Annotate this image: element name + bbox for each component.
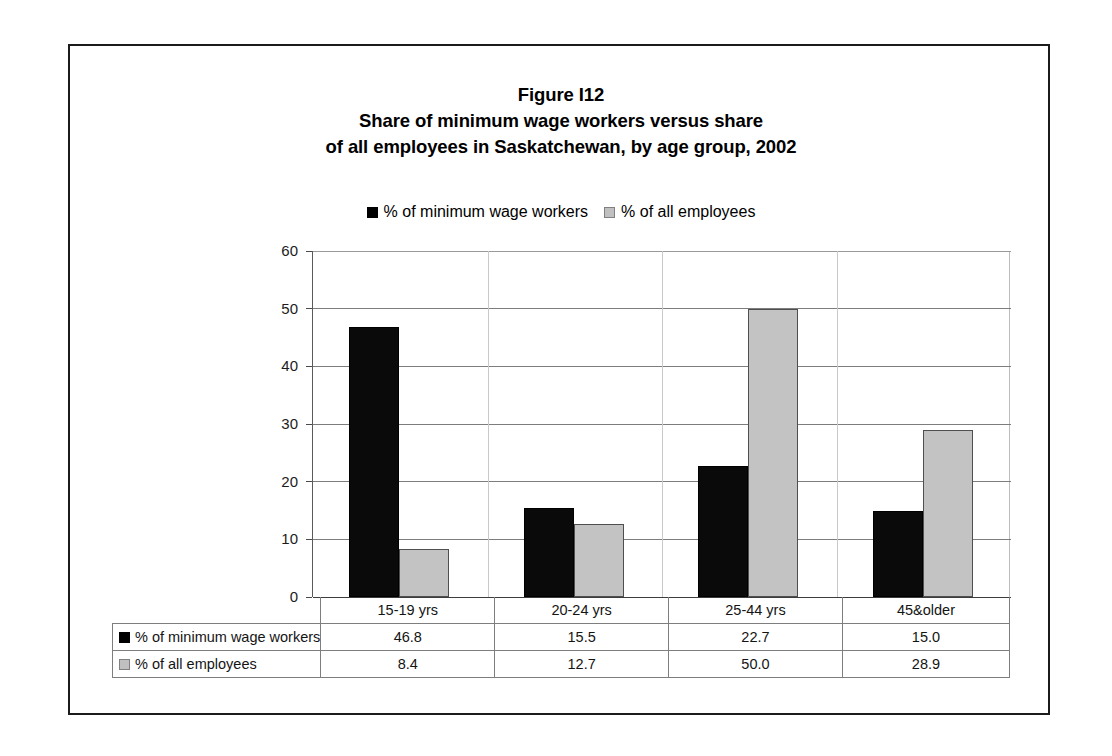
figure-border: Figure I12 Share of minimum wage workers…: [68, 44, 1050, 715]
y-tick-mark-20: [306, 481, 312, 482]
y-tick-label-20: 20: [240, 474, 298, 489]
y-tick-label-60: 60: [240, 243, 298, 258]
y-tick-label-50: 50: [240, 301, 298, 316]
column-header-1: 15-19 yrs: [321, 597, 495, 624]
table-cell-r1-c1: 46.8: [321, 624, 495, 651]
figure-title-line-1: Share of minimum wage workers versus sha…: [70, 108, 1052, 134]
table-row: % of all employees8.412.750.028.9: [113, 651, 1010, 678]
y-tick-label-30: 30: [240, 416, 298, 431]
table-row: % of minimum wage workers46.815.522.715.…: [113, 624, 1010, 651]
figure-title-line-2: of all employees in Saskatchewan, by age…: [70, 134, 1052, 160]
legend-item-minimum-wage-workers: % of minimum wage workers: [367, 203, 589, 221]
legend-label-minimum-wage-workers: % of minimum wage workers: [384, 203, 589, 221]
table-cell-r2-c2: 12.7: [495, 651, 669, 678]
bar-45-older-series-0: [873, 511, 923, 598]
table-cell-r2-c1: 8.4: [321, 651, 495, 678]
category-separator-2: [662, 251, 663, 597]
column-header-2: 20-24 yrs: [495, 597, 669, 624]
legend-item-all-employees: % of all employees: [604, 203, 755, 221]
table-header-spacer: [113, 597, 321, 624]
bar-25-44-yrs-series-1: [748, 309, 798, 597]
chart-legend: % of minimum wage workers % of all emplo…: [70, 203, 1052, 221]
table-row-label-2: % of all employees: [113, 651, 321, 678]
data-table: 15-19 yrs20-24 yrs25-44 yrs45&older% of …: [112, 597, 1010, 678]
table-cell-r1-c2: 15.5: [495, 624, 669, 651]
column-header-3: 25-44 yrs: [669, 597, 843, 624]
y-tick-mark-10: [306, 539, 312, 540]
legend-swatch-gray-square: [604, 207, 615, 218]
bar-25-44-yrs-series-0: [698, 466, 748, 597]
table-swatch-gray-square: [119, 659, 130, 670]
y-tick-mark-50: [306, 308, 312, 309]
legend-swatch-black-square: [367, 207, 378, 218]
legend-label-all-employees: % of all employees: [621, 203, 755, 221]
table-swatch-black-square: [119, 632, 130, 643]
table-cell-r2-c3: 50.0: [669, 651, 843, 678]
category-separator-3: [837, 251, 838, 597]
bar-15-19-yrs-series-0: [349, 327, 399, 597]
bar-15-19-yrs-series-1: [399, 549, 449, 597]
figure-number: Figure I12: [70, 82, 1052, 108]
table-cell-r1-c4: 15.0: [842, 624, 1009, 651]
y-tick-mark-40: [306, 366, 312, 367]
y-tick-mark-60: [306, 251, 312, 252]
y-tick-label-40: 40: [240, 358, 298, 373]
table-cell-r2-c4: 28.9: [842, 651, 1009, 678]
category-separator-1: [488, 251, 489, 597]
bar-20-24-yrs-series-1: [574, 524, 624, 597]
bar-20-24-yrs-series-0: [524, 508, 574, 597]
bar-45-older-series-1: [923, 430, 973, 597]
data-table-body: 15-19 yrs20-24 yrs25-44 yrs45&older% of …: [113, 597, 1010, 678]
table-row-label-text: % of all employees: [135, 656, 257, 672]
y-tick-mark-30: [306, 424, 312, 425]
plot-wrapper: 6050403020100: [312, 251, 1010, 597]
table-cell-r1-c3: 22.7: [669, 624, 843, 651]
figure-page: Figure I12 Share of minimum wage workers…: [0, 0, 1112, 756]
table-row-label-text: % of minimum wage workers: [135, 629, 320, 645]
figure-title-block: Figure I12 Share of minimum wage workers…: [70, 82, 1052, 160]
table-row-label-1: % of minimum wage workers: [113, 624, 321, 651]
y-tick-label-10: 10: [240, 531, 298, 546]
table-header-row: 15-19 yrs20-24 yrs25-44 yrs45&older: [113, 597, 1010, 624]
column-header-4: 45&older: [842, 597, 1009, 624]
